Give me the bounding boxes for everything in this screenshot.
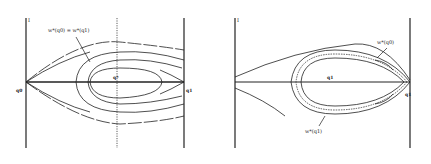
lens-edge: [26, 52, 90, 82]
left-point-label: q0: [16, 88, 22, 93]
left-diagram-svg: w*(q0) = w*(q1) I q0 q1 q*: [0, 0, 215, 164]
center-point-label: q1: [327, 75, 333, 80]
outer-lower-curve: [26, 82, 184, 124]
right-diagram-svg: w*(q0) w*(q1) I q1 q1: [215, 0, 431, 164]
right-point-label: q1: [405, 92, 411, 97]
outer-upper-curve: [26, 42, 184, 82]
annotation-top: w*(q0): [377, 39, 394, 46]
lens-edge: [26, 82, 90, 112]
upper-separatrix: [235, 44, 410, 80]
orbit-1: [90, 68, 162, 98]
axis-label: I: [237, 17, 239, 23]
left-phase-diagram: w*(q0) = w*(q1) I q0 q1 q*: [0, 0, 215, 164]
right-phase-diagram: w*(q0) w*(q1) I q1 q1: [215, 0, 431, 164]
lens-edge: [160, 70, 184, 82]
center-point-label: q*: [113, 75, 119, 80]
annotation-leader-bottom: [319, 116, 325, 126]
lens-edge: [160, 82, 184, 94]
annotation-bottom: w*(q1): [305, 128, 322, 135]
lower-separatrix: [235, 88, 285, 116]
right-point-label: q1: [186, 88, 192, 93]
annotation-label: w*(q0) = w*(q1): [48, 27, 90, 34]
axis-label: I: [28, 17, 30, 23]
